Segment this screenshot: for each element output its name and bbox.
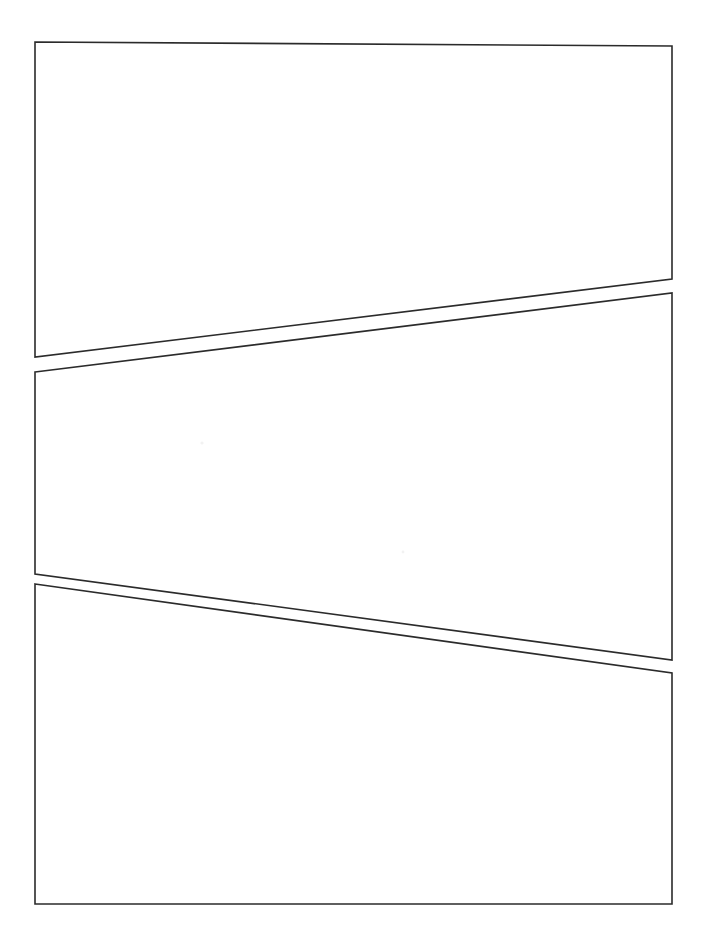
comic-page-canvas: [0, 0, 706, 950]
comic-page: [0, 0, 706, 950]
paper-speck-1: [200, 441, 203, 444]
paper-speck-2: [402, 551, 405, 554]
